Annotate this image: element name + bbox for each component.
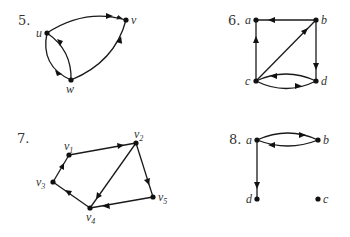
node-v2 xyxy=(133,140,138,145)
node-label-c: c xyxy=(323,192,329,206)
node-d xyxy=(254,196,259,201)
graph-number: 7. xyxy=(17,131,29,146)
arrowhead xyxy=(55,70,62,76)
arrowhead xyxy=(313,63,319,70)
node-label-c: c xyxy=(245,74,251,88)
directed-graphs-figure: 5. u v w 6. xyxy=(0,0,350,237)
node-label-b: b xyxy=(321,13,327,27)
arrowhead xyxy=(59,163,64,170)
arrowhead xyxy=(106,13,113,19)
arrowhead xyxy=(117,143,124,149)
edge-v3-v1 xyxy=(53,155,69,182)
node-label-w: w xyxy=(66,82,74,96)
edge-v1-v2 xyxy=(69,143,136,155)
edge-u-v xyxy=(47,16,126,33)
graph-number: 8. xyxy=(229,132,241,147)
arrowhead xyxy=(268,142,275,148)
arrowhead xyxy=(270,73,277,79)
node-label-v2: v2 xyxy=(134,127,143,143)
arrowhead xyxy=(299,132,306,138)
node-label-d: d xyxy=(321,74,328,88)
graph-number: 6. xyxy=(228,13,240,28)
node-v5 xyxy=(150,194,155,199)
edge-v2-v5 xyxy=(136,143,153,197)
graph-6: 6. a b c d xyxy=(228,13,328,89)
node-label-a: a xyxy=(245,13,251,27)
arrowhead xyxy=(144,178,150,185)
graph-8: 8. a b c d xyxy=(229,132,329,206)
node-a xyxy=(254,137,259,142)
node-label-b: b xyxy=(323,133,329,147)
node-label-v: v xyxy=(131,13,137,27)
node-label-a: a xyxy=(246,133,252,147)
node-b xyxy=(313,17,318,22)
node-d xyxy=(313,78,318,83)
edge-v4-v3 xyxy=(53,182,90,208)
edge-v5-v4 xyxy=(90,197,153,208)
node-label-v4: v4 xyxy=(86,210,95,226)
graph-number: 5. xyxy=(18,13,30,28)
node-label-v5: v5 xyxy=(158,190,167,206)
node-label-v3: v3 xyxy=(36,175,45,191)
graph-7: 7. v1 v2 v3 v4 v5 xyxy=(17,127,167,226)
graph-5: 5. u v w xyxy=(18,13,137,96)
arrowhead xyxy=(295,83,302,89)
arrowhead xyxy=(102,203,110,209)
node-u xyxy=(44,30,49,35)
arrowhead xyxy=(268,17,275,23)
node-v3 xyxy=(50,179,55,184)
node-label-d: d xyxy=(246,192,253,206)
node-label-v1: v1 xyxy=(64,139,73,155)
arrowhead xyxy=(253,36,259,43)
node-a xyxy=(253,17,258,22)
node-v xyxy=(123,17,128,22)
edge-a-b xyxy=(257,133,318,140)
node-label-u: u xyxy=(36,26,42,40)
node-b xyxy=(315,137,320,142)
edge-w-v xyxy=(71,20,126,80)
node-c xyxy=(253,78,258,83)
edge-b-a xyxy=(257,140,318,146)
node-c xyxy=(315,196,320,201)
arrowhead xyxy=(254,182,260,189)
edge-c-d xyxy=(256,81,316,89)
edge-d-c xyxy=(256,74,316,81)
